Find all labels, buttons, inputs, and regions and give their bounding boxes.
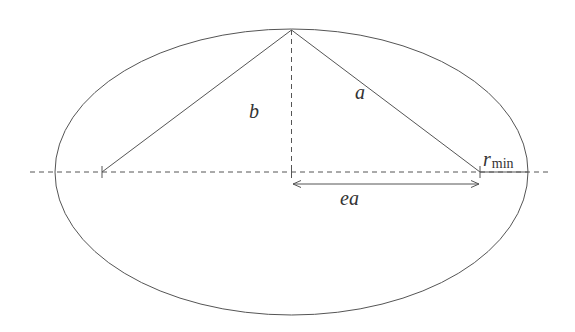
- left-focal-line: [102, 30, 292, 172]
- label-r-min: rmin: [483, 148, 514, 171]
- ellipse-diagram: b a ea rmin: [0, 0, 575, 332]
- label-b: b: [249, 100, 259, 122]
- label-a: a: [355, 81, 365, 103]
- right-focal-line-a: [292, 30, 481, 172]
- diagram-svg: b a ea rmin: [0, 0, 575, 332]
- label-min-subscript: min: [492, 156, 514, 171]
- label-r: r: [483, 148, 491, 170]
- label-ea: ea: [340, 187, 359, 209]
